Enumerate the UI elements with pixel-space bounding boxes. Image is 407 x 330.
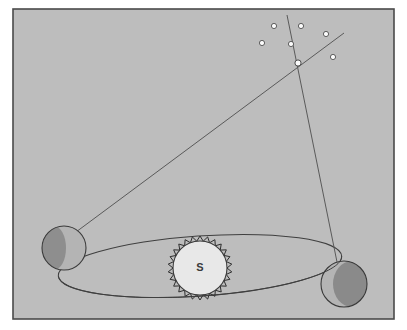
nearby-star (295, 60, 301, 66)
sun-label: S (196, 261, 203, 273)
background-star-2 (298, 23, 303, 28)
background-star-1 (271, 23, 276, 28)
background-star-6 (330, 54, 335, 59)
earth-position-a (42, 226, 86, 270)
parallax-diagram: S (0, 0, 407, 330)
diagram-canvas: S (0, 0, 407, 330)
background-star-5 (323, 31, 328, 36)
background-star-4 (288, 41, 293, 46)
background-star-3 (259, 40, 264, 45)
